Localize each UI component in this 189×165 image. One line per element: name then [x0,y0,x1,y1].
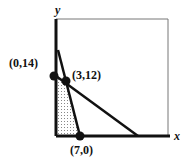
graph-canvas [0,0,189,165]
point-label-7-0: (7,0) [70,144,93,156]
x-axis-label: x [174,130,180,142]
vertex-0-14 [50,72,59,81]
point-label-3-12: (3,12) [72,69,101,81]
vertex-7-0 [76,132,85,141]
point-label-0-14: (0,14) [9,57,38,69]
y-axis-label: y [55,4,60,16]
vertex-3-12 [62,77,71,86]
